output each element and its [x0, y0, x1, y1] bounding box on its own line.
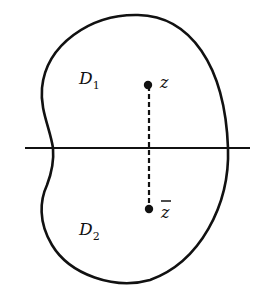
diagram-canvas: D1 D2 z z [0, 0, 259, 297]
point-z-label: z [159, 73, 169, 92]
domain-boundary-curve [42, 15, 229, 283]
region-d1-label: D1 [78, 68, 100, 92]
point-z-conjugate [145, 205, 153, 213]
point-z [144, 81, 152, 89]
point-z-conjugate-label: z [160, 203, 170, 222]
region-d2-label: D2 [78, 219, 100, 243]
